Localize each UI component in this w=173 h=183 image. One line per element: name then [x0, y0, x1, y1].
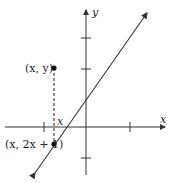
axis-x-label: x — [160, 113, 167, 126]
point-lower-label: (x, 2x + 1) — [5, 138, 63, 151]
axis-y-label: y — [91, 6, 99, 19]
graph-diagram: y x (x, y) (x, 2x + 1) x — [0, 0, 173, 183]
point-upper-label: (x, y) — [25, 62, 53, 75]
x-marker-label: x — [57, 115, 64, 128]
